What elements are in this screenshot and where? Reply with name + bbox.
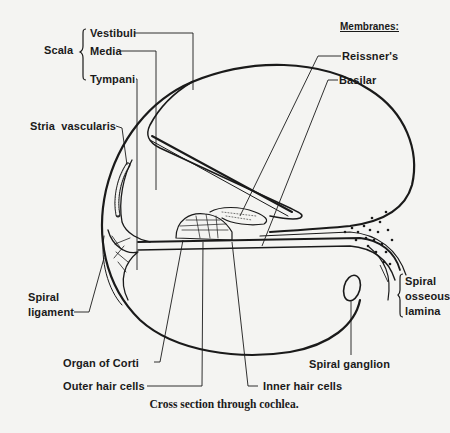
leader-stria xyxy=(116,126,127,165)
label-tympani: Tympani xyxy=(90,73,135,85)
leader-inner-hair-cells xyxy=(232,242,258,386)
label-stria-vascularis: Stria vascularis xyxy=(30,120,116,132)
organ-of-corti xyxy=(176,214,232,240)
label-basilar: Basilar xyxy=(339,74,376,86)
tectorial-membrane xyxy=(210,208,267,225)
cochlea-left-wall xyxy=(102,82,360,355)
label-spiral-ligament-2: ligament xyxy=(28,306,74,318)
spiral-ganglion xyxy=(341,273,363,302)
leader-basilar xyxy=(262,80,338,246)
basilar-membrane xyxy=(138,238,400,270)
label-spiral-ganglion: Spiral ganglion xyxy=(309,358,390,370)
leader-vestibuli xyxy=(135,33,193,90)
leader-outer-hair-cells xyxy=(147,242,203,386)
reissners-membrane xyxy=(152,136,292,212)
label-spiral-osseous-lamina-2: osseous xyxy=(405,290,450,302)
label-spiral-osseous-lamina-3: lamina xyxy=(405,305,440,317)
label-reissners: Reissner's xyxy=(342,50,398,62)
scala-brace-icon xyxy=(80,29,86,80)
label-membranes-header: Membranes: xyxy=(340,22,399,32)
label-vestibuli: Vestibuli xyxy=(90,27,136,39)
spiral-osseous-lamina xyxy=(368,246,389,300)
leader-spiral-ligament xyxy=(74,258,104,312)
figure-caption: Cross section through cochlea. xyxy=(0,398,448,410)
label-outer-hair-cells: Outer hair cells xyxy=(63,380,145,392)
label-spiral-osseous-lamina-1: Spiral xyxy=(405,275,436,287)
label-scala: Scala xyxy=(44,44,73,56)
label-spiral-ligament-1: Spiral xyxy=(28,291,59,303)
leader-tympani xyxy=(136,79,137,270)
lamina-brace-icon xyxy=(398,274,403,317)
cochlea-outer-wall xyxy=(192,65,414,232)
label-media: Media xyxy=(90,45,122,57)
label-organ-of-corti: Organ of Corti xyxy=(63,357,139,369)
label-inner-hair-cells: Inner hair cells xyxy=(263,380,342,392)
